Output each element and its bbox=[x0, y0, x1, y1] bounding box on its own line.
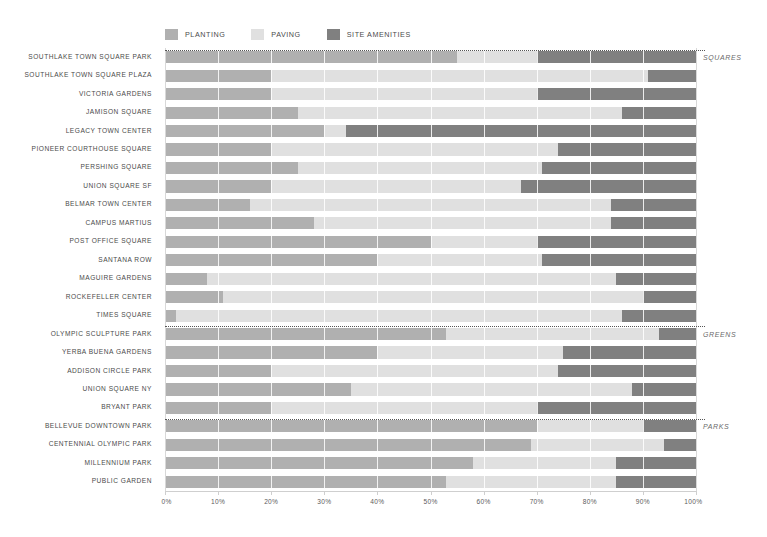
x-tick-mark bbox=[165, 491, 166, 495]
group-divider bbox=[165, 419, 705, 420]
group-divider bbox=[165, 50, 705, 51]
group-label-parks: PARKS bbox=[703, 423, 729, 430]
bar-row[interactable] bbox=[165, 180, 696, 192]
bar-segment-paving bbox=[271, 88, 537, 100]
bar-segment-planting bbox=[165, 328, 446, 340]
bar-row[interactable] bbox=[165, 346, 696, 358]
bar-segment-site_amenities bbox=[537, 402, 696, 414]
bar-row[interactable] bbox=[165, 162, 696, 174]
bar-segment-site_amenities bbox=[537, 236, 696, 248]
bar-row[interactable] bbox=[165, 51, 696, 63]
bar-segment-paving bbox=[298, 162, 542, 174]
bar-row[interactable] bbox=[165, 365, 696, 377]
bar-segment-site_amenities bbox=[542, 254, 696, 266]
x-tick-mark bbox=[271, 491, 272, 495]
bar-row[interactable] bbox=[165, 273, 696, 285]
y-axis-label: ROCKEFELLER CENTER bbox=[66, 294, 152, 301]
bar-row[interactable] bbox=[165, 236, 696, 248]
bar-row[interactable] bbox=[165, 457, 696, 469]
x-tick-label: 50% bbox=[423, 498, 437, 505]
x-tick-label: 40% bbox=[370, 498, 384, 505]
x-tick-label: 70% bbox=[530, 498, 544, 505]
legend-item: SITE AMENITIES bbox=[327, 29, 411, 40]
bar-segment-paving bbox=[377, 254, 542, 266]
y-axis-label: SOUTHLAKE TOWN SQUARE PLAZA bbox=[24, 72, 152, 79]
bar-segment-paving bbox=[298, 107, 622, 119]
bar-segment-paving bbox=[457, 51, 537, 63]
bar-segment-planting bbox=[165, 70, 271, 82]
y-axis-label: OLYMPIC SCULPTURE PARK bbox=[51, 331, 152, 338]
bar-segment-site_amenities bbox=[537, 88, 696, 100]
bar-row[interactable] bbox=[165, 439, 696, 451]
plot-area bbox=[165, 48, 696, 491]
bar-segment-paving bbox=[271, 402, 537, 414]
bar-segment-site_amenities bbox=[521, 180, 696, 192]
bar-row[interactable] bbox=[165, 125, 696, 137]
bar-row[interactable] bbox=[165, 328, 696, 340]
bar-row[interactable] bbox=[165, 310, 696, 322]
bar-segment-planting bbox=[165, 420, 537, 432]
x-tick-label: 30% bbox=[317, 498, 331, 505]
y-axis-label: JAMISON SQUARE bbox=[86, 109, 152, 116]
y-axis-label: LEGACY TOWN CENTER bbox=[66, 128, 152, 135]
bar-segment-site_amenities bbox=[611, 199, 696, 211]
bar-row[interactable] bbox=[165, 383, 696, 395]
bar-row[interactable] bbox=[165, 143, 696, 155]
y-axis-label: BELMAR TOWN CENTER bbox=[65, 201, 152, 208]
bar-segment-planting bbox=[165, 346, 377, 358]
bar-row[interactable] bbox=[165, 254, 696, 266]
y-axis-label: ADDISON CIRCLE PARK bbox=[67, 368, 152, 375]
bar-segment-planting bbox=[165, 236, 431, 248]
bar-row[interactable] bbox=[165, 476, 696, 488]
bar-row[interactable] bbox=[165, 402, 696, 414]
x-tick-label: 20% bbox=[264, 498, 278, 505]
y-axis-label: BRYANT PARK bbox=[101, 404, 152, 411]
bar-row[interactable] bbox=[165, 420, 696, 432]
x-tick-mark bbox=[324, 491, 325, 495]
legend-label: PAVING bbox=[271, 30, 300, 39]
bar-segment-paving bbox=[271, 143, 558, 155]
bar-segment-site_amenities bbox=[346, 125, 696, 137]
bar-segment-site_amenities bbox=[622, 310, 696, 322]
bar-row[interactable] bbox=[165, 107, 696, 119]
bar-segment-paving bbox=[446, 476, 616, 488]
bar-segment-planting bbox=[165, 107, 298, 119]
y-axis-labels: SOUTHLAKE TOWN SQUARE PARKSOUTHLAKE TOWN… bbox=[0, 48, 158, 491]
bar-segment-site_amenities bbox=[611, 217, 696, 229]
bar-row[interactable] bbox=[165, 217, 696, 229]
bar-row[interactable] bbox=[165, 291, 696, 303]
bar-segment-planting bbox=[165, 365, 271, 377]
x-tick-mark bbox=[484, 491, 485, 495]
bar-segment-site_amenities bbox=[537, 51, 696, 63]
bar-segment-site_amenities bbox=[563, 346, 696, 358]
bar-segment-site_amenities bbox=[664, 439, 696, 451]
bar-segment-site_amenities bbox=[558, 365, 696, 377]
bar-segment-planting bbox=[165, 180, 271, 192]
bar-segment-planting bbox=[165, 143, 271, 155]
x-tick-mark bbox=[643, 491, 644, 495]
legend-swatch-icon bbox=[165, 29, 178, 40]
bar-segment-planting bbox=[165, 457, 473, 469]
y-axis-label: PIONEER COURTHOUSE SQUARE bbox=[32, 146, 152, 153]
group-label-greens: GREENS bbox=[703, 331, 736, 338]
y-axis-label: PUBLIC GARDEN bbox=[92, 478, 152, 485]
bar-segment-planting bbox=[165, 199, 250, 211]
y-axis-label: YERBA BUENA GARDENS bbox=[62, 349, 152, 356]
bar-row[interactable] bbox=[165, 70, 696, 82]
bar-segment-planting bbox=[165, 476, 446, 488]
y-axis-label: CAMPUS MARTIUS bbox=[85, 220, 152, 227]
bar-segment-paving bbox=[377, 346, 563, 358]
bar-segment-paving bbox=[271, 365, 558, 377]
x-tick-label: 0% bbox=[161, 498, 171, 505]
y-axis-label: POST OFFICE SQUARE bbox=[69, 238, 152, 245]
bar-row[interactable] bbox=[165, 88, 696, 100]
bar-segment-site_amenities bbox=[542, 162, 696, 174]
chart-page: PLANTINGPAVINGSITE AMENITIES SOUTHLAKE T… bbox=[0, 0, 767, 537]
bar-segment-planting bbox=[165, 125, 324, 137]
bar-segment-paving bbox=[271, 70, 648, 82]
bar-segment-planting bbox=[165, 254, 377, 266]
bar-row[interactable] bbox=[165, 199, 696, 211]
y-axis-label: CENTENNIAL OLYMPIC PARK bbox=[49, 441, 152, 448]
y-axis-label: MAGUIRE GARDENS bbox=[79, 275, 152, 282]
y-axis-label: PERSHING SQUARE bbox=[80, 164, 152, 171]
